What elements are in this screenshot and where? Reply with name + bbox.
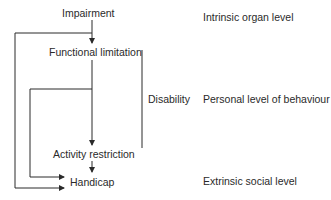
node-handicap: Handicap (70, 176, 114, 188)
node-activity-restriction: Activity restriction (53, 148, 135, 160)
node-impairment: Impairment (62, 7, 115, 19)
edge-functional-handicap (30, 89, 92, 177)
node-functional-limitation: Functional limitation (49, 46, 142, 58)
group-disability-label: Disability (148, 93, 190, 105)
level-intrinsic: Intrinsic organ level (203, 11, 293, 23)
level-personal: Personal level of behaviour (203, 93, 330, 105)
level-extrinsic: Extrinsic social level (203, 175, 297, 187)
